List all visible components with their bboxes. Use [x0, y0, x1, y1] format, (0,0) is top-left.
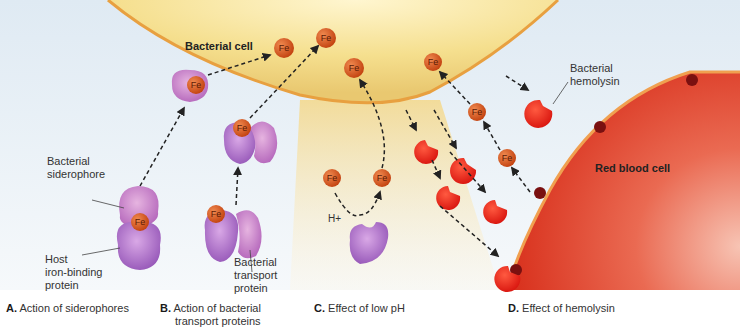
- svg-text:Fe: Fe: [472, 107, 483, 117]
- svg-text:Fe: Fe: [349, 63, 360, 73]
- svg-text:Fe: Fe: [321, 33, 332, 43]
- caption-a: A. Action of siderophores: [6, 302, 129, 315]
- h-plus-label: H+: [328, 212, 341, 225]
- transport-protein-label: Bacterial transport protein: [234, 256, 277, 295]
- svg-text:Fe: Fe: [191, 80, 202, 90]
- hemolysin-label: Bacterial hemolysin: [570, 62, 620, 88]
- svg-text:Fe: Fe: [237, 123, 248, 133]
- host-protein-label: Host iron-binding protein: [45, 253, 102, 292]
- caption-c: C. Effect of low pH: [314, 302, 405, 315]
- svg-text:Fe: Fe: [377, 173, 388, 183]
- caption-b: B. Action of bacterial transport protein…: [160, 302, 261, 328]
- membrane-pore: [534, 187, 546, 199]
- membrane-pore: [686, 74, 698, 86]
- siderophore-label: Bacterial siderophore: [47, 155, 105, 181]
- red-blood-cell-label: Red blood cell: [595, 162, 670, 175]
- caption-d: D. Effect of hemolysin: [508, 302, 615, 315]
- svg-text:Fe: Fe: [135, 217, 146, 227]
- svg-text:Fe: Fe: [211, 209, 222, 219]
- svg-text:Fe: Fe: [428, 57, 439, 67]
- membrane-pore: [594, 121, 606, 133]
- svg-text:Fe: Fe: [327, 173, 338, 183]
- bacterial-cell-label: Bacterial cell: [185, 40, 253, 53]
- svg-text:Fe: Fe: [502, 153, 513, 163]
- svg-text:Fe: Fe: [279, 43, 290, 53]
